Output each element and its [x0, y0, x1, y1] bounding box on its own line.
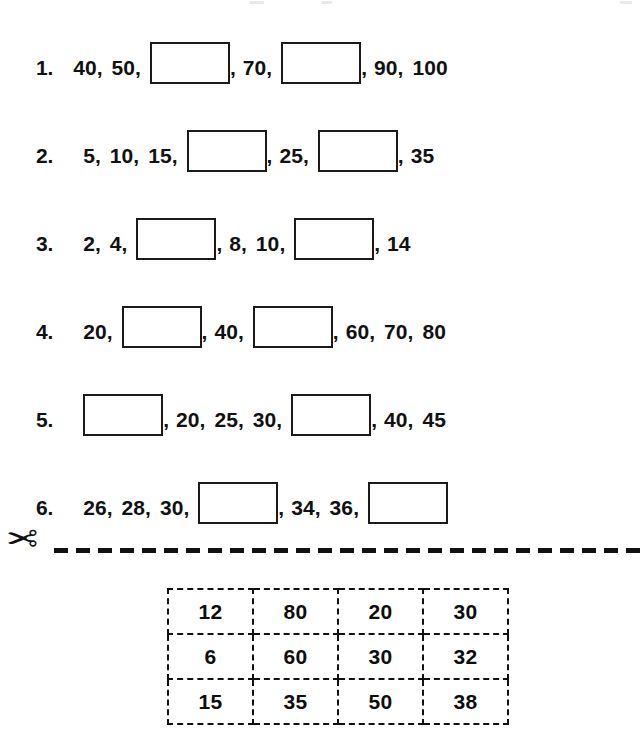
sequence-number: 2: [83, 233, 95, 264]
answer-grid-row: 6603032: [168, 634, 508, 679]
comma-separator: ,: [202, 321, 215, 352]
sequence-number: 35: [411, 145, 435, 176]
problem-number: 4.: [36, 321, 53, 352]
comma-separator: ,: [107, 321, 122, 352]
comma-separator: ,: [369, 321, 384, 352]
sequence-number: 100: [412, 57, 447, 88]
problem-row: 1.40,50,,70,,90,100: [0, 0, 643, 88]
problem-number: 3.: [36, 233, 53, 264]
sequence-number: 15: [148, 145, 172, 176]
sequence-number: 4: [110, 233, 122, 264]
answer-box[interactable]: [294, 218, 374, 260]
answer-box[interactable]: [318, 130, 398, 172]
comma-separator: ,: [333, 321, 346, 352]
answer-grid-cell[interactable]: 60: [253, 634, 338, 679]
answer-grid-cell[interactable]: 30: [423, 589, 508, 634]
answer-box[interactable]: [368, 482, 448, 524]
answer-box[interactable]: [122, 306, 202, 348]
answer-grid-cell[interactable]: 38: [423, 679, 508, 724]
sequence-number: 40: [73, 57, 97, 88]
answer-box[interactable]: [150, 42, 230, 84]
comma-separator: ,: [238, 409, 253, 440]
comma-separator: ,: [122, 233, 137, 264]
answer-grid-cell[interactable]: 6: [168, 634, 253, 679]
comma-separator: ,: [267, 145, 280, 176]
sequence-number: 25: [214, 409, 238, 440]
answer-grid-cell[interactable]: 12: [168, 589, 253, 634]
number-sequence: 2,4,,8,10,,14: [83, 218, 411, 264]
scissors-icon: ✂: [6, 520, 38, 558]
answer-box[interactable]: [187, 130, 267, 172]
answer-grid-row: 12802030: [168, 589, 508, 634]
comma-separator: ,: [361, 57, 374, 88]
sequence-number: 20: [176, 409, 200, 440]
answer-grid-cell[interactable]: 35: [253, 679, 338, 724]
problem-number: 5.: [36, 409, 53, 440]
comma-separator: ,: [398, 57, 413, 88]
sequence-number: 14: [387, 233, 411, 264]
comma-separator: ,: [200, 409, 215, 440]
comma-separator: ,: [371, 409, 384, 440]
comma-separator: ,: [279, 233, 294, 264]
comma-separator: ,: [95, 145, 110, 176]
answer-box[interactable]: [83, 394, 163, 436]
sequence-number: 80: [422, 321, 446, 352]
answer-grid-cell[interactable]: 15: [168, 679, 253, 724]
number-sequence: 20,,40,,60,70,80: [83, 306, 446, 352]
answer-grid-cell[interactable]: 32: [423, 634, 508, 679]
answer-box[interactable]: [198, 482, 278, 524]
problem-row: 6.26,28,30,,34,36,: [0, 440, 643, 528]
comma-separator: ,: [303, 145, 318, 176]
answer-grid: 12802030660303215355038: [167, 588, 509, 725]
number-sequence: 5,10,15,,25,,35: [83, 130, 434, 176]
comma-separator: ,: [398, 145, 411, 176]
comma-separator: ,: [408, 321, 423, 352]
answer-box[interactable]: [281, 42, 361, 84]
answer-grid-cell[interactable]: 30: [338, 634, 423, 679]
sequence-number: 40: [214, 321, 238, 352]
comma-separator: ,: [241, 233, 256, 264]
sequence-number: 30: [253, 409, 277, 440]
comma-separator: ,: [230, 57, 243, 88]
sequence-number: 50: [112, 57, 136, 88]
sequence-number: 10: [110, 145, 134, 176]
answer-box[interactable]: [253, 306, 333, 348]
comma-separator: ,: [238, 321, 253, 352]
comma-separator: ,: [216, 233, 229, 264]
sequence-number: 90: [374, 57, 398, 88]
problem-row: 4.20,,40,,60,70,80: [0, 264, 643, 352]
comma-separator: ,: [97, 57, 112, 88]
problem-row: 2.5,10,15,,25,,35: [0, 88, 643, 176]
comma-separator: ,: [95, 233, 110, 264]
sequence-number: 70: [384, 321, 408, 352]
comma-separator: ,: [172, 145, 187, 176]
answer-box[interactable]: [136, 218, 216, 260]
sequence-number: 20: [83, 321, 107, 352]
comma-separator: ,: [133, 145, 148, 176]
sequence-number: 5: [83, 145, 95, 176]
answer-grid-cell[interactable]: 50: [338, 679, 423, 724]
sequence-number: 70: [243, 57, 267, 88]
answer-box[interactable]: [291, 394, 371, 436]
comma-separator: ,: [135, 57, 150, 88]
number-sequence: ,20,25,30,,40,45: [83, 394, 446, 440]
number-sequence: 40,50,,70,,90,100: [73, 42, 448, 88]
problem-number: 1.: [36, 57, 53, 88]
answer-grid-wrap: 12802030660303215355038: [167, 588, 501, 725]
sequence-number: 60: [346, 321, 370, 352]
problem-list: 1.40,50,,70,,90,1002.5,10,15,,25,,353.2,…: [0, 0, 643, 528]
sequence-number: 40: [384, 409, 408, 440]
answer-grid-cell[interactable]: 20: [338, 589, 423, 634]
sequence-number: 25: [279, 145, 303, 176]
sequence-number: 45: [422, 409, 446, 440]
answer-grid-row: 15355038: [168, 679, 508, 724]
comma-separator: ,: [266, 57, 281, 88]
answer-grid-cell[interactable]: 80: [253, 589, 338, 634]
sequence-number: 8: [229, 233, 241, 264]
comma-separator: ,: [163, 409, 176, 440]
comma-separator: ,: [374, 233, 387, 264]
cut-line: ✂: [0, 520, 643, 578]
worksheet-page: { "worksheet": { "problems": [ { "number…: [0, 0, 643, 734]
problem-row: 3.2,4,,8,10,,14: [0, 176, 643, 264]
problem-number: 2.: [36, 145, 53, 176]
